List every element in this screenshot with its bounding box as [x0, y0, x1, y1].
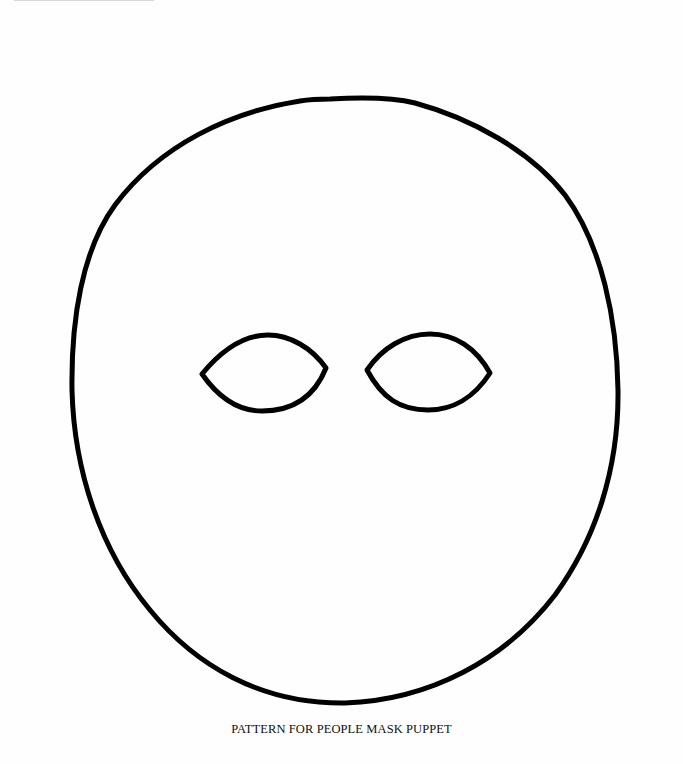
- left-eye-hole: [202, 335, 326, 411]
- mask-pattern-drawing: [0, 0, 683, 764]
- pattern-caption: PATTERN FOR PEOPLE MASK PUPPET: [0, 722, 683, 737]
- right-eye-hole: [367, 334, 490, 410]
- pattern-page: PATTERN FOR PEOPLE MASK PUPPET: [0, 0, 683, 764]
- mask-outline: [72, 98, 618, 703]
